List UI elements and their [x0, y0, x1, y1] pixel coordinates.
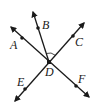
label-d: D [44, 65, 54, 79]
point-d-dot [47, 60, 51, 64]
label-c: C [75, 35, 84, 49]
label-b: B [42, 18, 50, 32]
point-a-dot [20, 36, 24, 40]
point-b-dot [36, 26, 40, 30]
label-f: F [77, 72, 86, 86]
label-e: E [16, 75, 25, 89]
angle-arc-bdc [46, 53, 55, 55]
label-a: A [9, 38, 18, 52]
geometry-diagram: A B C D E F [0, 0, 95, 109]
